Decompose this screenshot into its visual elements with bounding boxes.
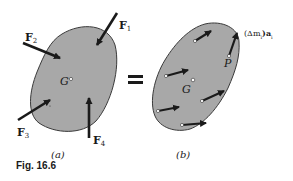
- figure-caption: Fig. 16.6: [16, 160, 56, 171]
- effective-force-label: (Δmi)ai: [244, 29, 273, 40]
- center-of-mass-label-a: G: [60, 76, 69, 87]
- panel-a-caption: (a): [51, 150, 65, 160]
- panel-b: [152, 23, 239, 130]
- point-p-label: P: [224, 58, 231, 69]
- equals-sign: [128, 75, 143, 84]
- center-of-mass-b: [191, 78, 195, 82]
- rigid-body-a: [31, 27, 117, 132]
- diagram-canvas: [0, 0, 293, 181]
- force-label-f2: F2: [25, 32, 37, 45]
- center-of-mass-label-b: G: [182, 84, 191, 95]
- force-label-f4: F4: [93, 135, 105, 148]
- panel-b-caption: (b): [176, 150, 190, 160]
- center-of-mass-a: [69, 77, 72, 80]
- force-label-f3: F3: [17, 127, 29, 140]
- force-label-f1: F1: [119, 20, 131, 33]
